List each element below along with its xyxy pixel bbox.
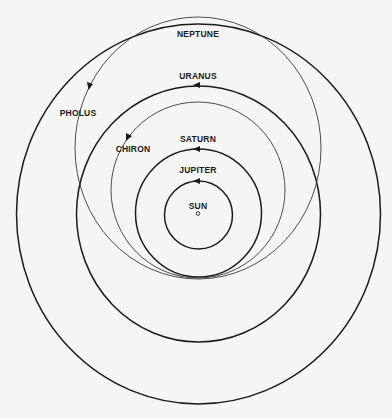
- sun-label: SUN: [189, 201, 208, 211]
- saturn-direction-arrow-icon: [193, 146, 200, 152]
- uranus-label: URANUS: [179, 71, 217, 81]
- saturn-label: SATURN: [180, 134, 216, 144]
- pholus-label: PHOLUS: [60, 108, 97, 118]
- chiron-label: CHIRON: [116, 144, 151, 154]
- jupiter-label: JUPITER: [179, 165, 216, 175]
- orbit-diagram: NEPTUNE URANUS PHOLUS CHIRON SATURN JUPI…: [0, 0, 392, 419]
- chiron-orbit: [111, 102, 285, 278]
- uranus-orbit: [77, 86, 321, 342]
- jupiter-direction-arrow-icon: [193, 178, 200, 184]
- sun-icon: [196, 212, 200, 216]
- neptune-orbit: [17, 24, 381, 404]
- neptune-label: NEPTUNE: [177, 29, 219, 39]
- uranus-direction-arrow-icon: [193, 82, 200, 88]
- orbit-diagram-svg: NEPTUNE URANUS PHOLUS CHIRON SATURN JUPI…: [0, 0, 392, 419]
